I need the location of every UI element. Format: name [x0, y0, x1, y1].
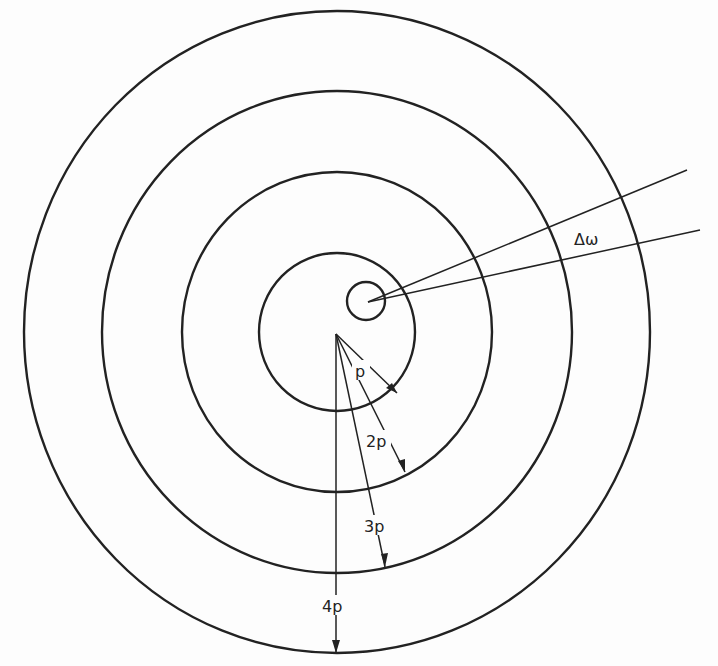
arrowhead-2p — [398, 459, 405, 472]
circle-2p — [182, 172, 492, 492]
label-3p: 3p — [364, 517, 384, 536]
label-p: p — [355, 362, 365, 381]
circle-3p — [102, 91, 572, 573]
circle-4p — [24, 11, 650, 653]
concentric-circles-diagram: p 2p 3p 4p Δω — [0, 0, 718, 666]
arrowhead-4p — [332, 640, 340, 653]
solid-angle-cone — [368, 170, 700, 302]
label-4p: 4p — [322, 597, 342, 616]
small-source-circle — [347, 282, 385, 320]
diagram-canvas: p 2p 3p 4p Δω — [0, 0, 718, 666]
arrowhead-3p — [381, 553, 388, 567]
label-2p: 2p — [366, 432, 386, 451]
label-delta-omega: Δω — [574, 230, 598, 249]
radius-2p-line — [336, 334, 405, 472]
